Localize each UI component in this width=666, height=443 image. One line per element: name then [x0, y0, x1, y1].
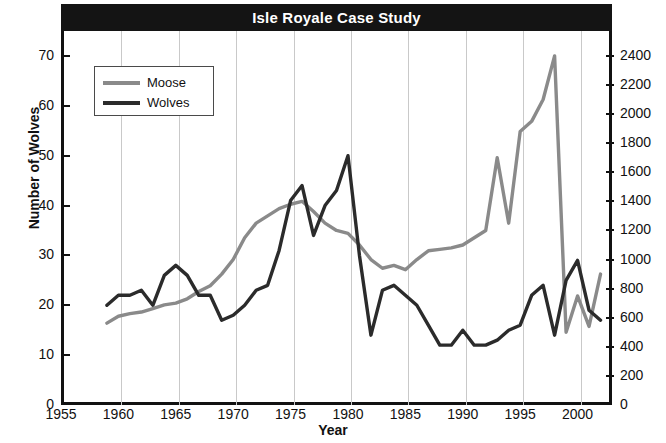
y-axis-left-tick-mark [62, 155, 70, 157]
y-axis-right-tick-mark [606, 375, 614, 377]
y-axis-right-tick-label: 1400 [620, 192, 666, 208]
line-swatch-icon [103, 101, 140, 105]
x-axis-tick-label: 1980 [325, 406, 371, 422]
y-axis-right-tick-mark [606, 346, 614, 348]
y-axis-right-tick-mark [606, 200, 614, 202]
x-axis-tick-label: 1965 [153, 406, 199, 422]
y-axis-left-tick-label: 10 [10, 346, 54, 362]
y-axis-right-tick-label: 600 [620, 309, 666, 325]
y-axis-right-tick-label: 2000 [620, 105, 666, 121]
x-axis-label: Year [0, 422, 666, 438]
y-axis-right-tick-label: 1200 [620, 221, 666, 237]
y-axis-right-tick-label: 1000 [620, 251, 666, 267]
legend-label-wolves: Wolves [147, 96, 189, 109]
y-axis-right-tick-label: 400 [620, 338, 666, 354]
x-axis-tick-label: 1995 [497, 406, 543, 422]
y-axis-right-tick-mark [606, 229, 614, 231]
y-axis-left-tick-label: 20 [10, 296, 54, 312]
y-axis-left-tick-mark [62, 205, 70, 207]
y-axis-right-tick-label: 2400 [620, 47, 666, 63]
y-axis-right-tick-mark [606, 317, 614, 319]
y-axis-right-tick-label: 1600 [620, 163, 666, 179]
y-axis-right-tick-mark [606, 84, 614, 86]
legend-item-moose: Moose [103, 76, 186, 89]
y-axis-right-tick-label: 200 [620, 367, 666, 383]
y-axis-right-tick-mark [606, 142, 614, 144]
x-axis-tick-label: 1970 [210, 406, 256, 422]
y-axis-right-tick-label: 800 [620, 280, 666, 296]
x-axis-tick-label: 1960 [95, 406, 141, 422]
y-axis-right-tick-mark [606, 113, 614, 115]
y-axis-left-tick-mark [62, 254, 70, 256]
y-axis-left-tick-label: 30 [10, 246, 54, 262]
x-axis-tick-label: 2000 [555, 406, 601, 422]
x-axis-tick-label: 1975 [268, 406, 314, 422]
y-axis-left-tick-mark [62, 105, 70, 107]
y-axis-left-tick-mark [62, 55, 70, 57]
y-axis-right-tick-mark [606, 288, 614, 290]
legend-label-moose: Moose [147, 76, 186, 89]
y-axis-left-tick-mark [62, 304, 70, 306]
y-axis-right-tick-mark [606, 259, 614, 261]
line-swatch-icon [103, 81, 140, 85]
chart-title-bar: Isle Royale Case Study [61, 4, 612, 31]
y-axis-right-tick-label: 1800 [620, 134, 666, 150]
y-axis-right-tick-mark [606, 55, 614, 57]
y-axis-left-label: Number of Wolves [26, 88, 42, 248]
y-axis-right-tick-mark [606, 171, 614, 173]
y-axis-right-tick-label: 0 [620, 396, 666, 412]
y-axis-left-tick-label: 70 [10, 47, 54, 63]
y-axis-left-tick-mark [62, 354, 70, 356]
series-line-wolves [107, 156, 601, 345]
x-axis-tick-label: 1955 [38, 406, 84, 422]
x-axis-tick-label: 1990 [440, 406, 486, 422]
x-axis-tick-label: 1985 [382, 406, 428, 422]
page-title: Isle Royale Case Study [252, 9, 421, 26]
legend: Moose Wolves [94, 66, 214, 116]
chart-container: Isle Royale Case Study 010203040506070 0… [0, 0, 666, 443]
y-axis-right-tick-label: 2200 [620, 76, 666, 92]
legend-item-wolves: Wolves [103, 96, 189, 109]
